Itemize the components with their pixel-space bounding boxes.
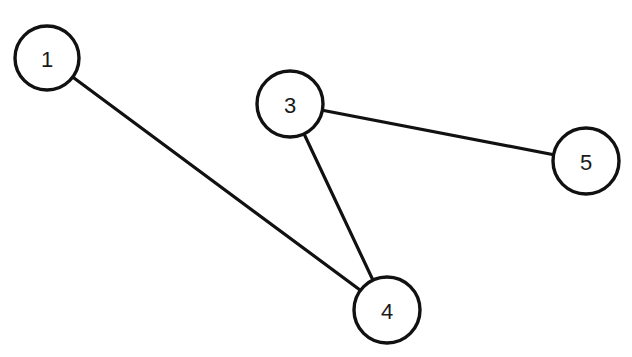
node-3: 3 — [257, 71, 323, 137]
node-label: 5 — [580, 150, 592, 175]
node-1: 1 — [15, 26, 79, 90]
node-label: 3 — [284, 93, 296, 118]
node-5: 5 — [553, 128, 619, 194]
nodes-layer: 1354 — [15, 26, 619, 343]
edge-3-5 — [290, 104, 586, 161]
node-4: 4 — [354, 277, 420, 343]
node-label: 4 — [381, 299, 393, 324]
edge-1-4 — [47, 58, 387, 310]
graph-diagram: 1354 — [0, 0, 632, 357]
node-label: 1 — [41, 47, 53, 72]
